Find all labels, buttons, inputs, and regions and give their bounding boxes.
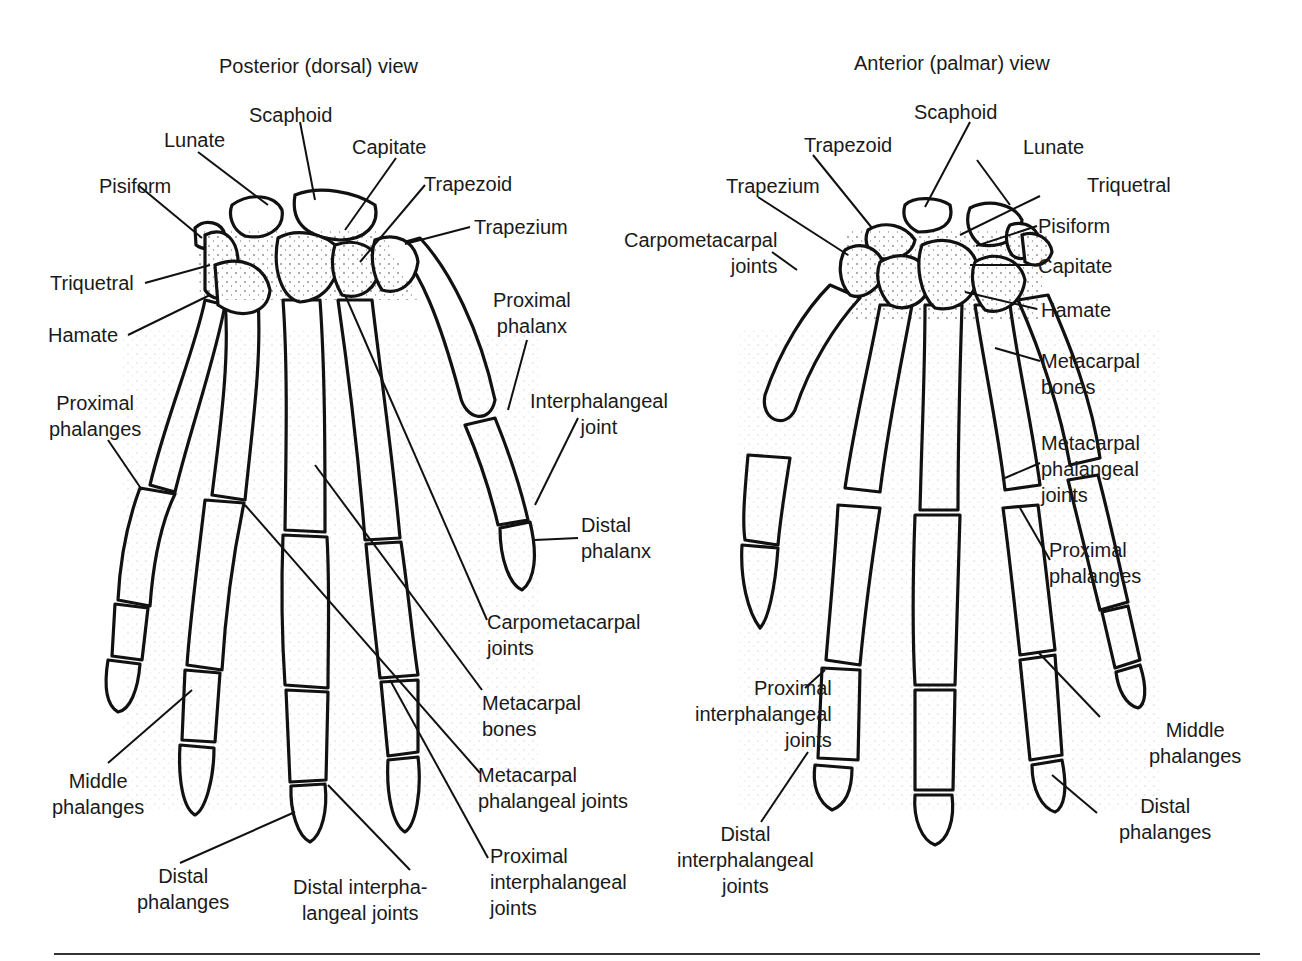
label-anterior-distal-interphalangeal-joints: Distal interphalangeal joints [677,821,814,899]
label-posterior-metacarpal-phalangeal-joints: Metacarpal phalangeal joints [478,762,628,814]
label-posterior-trapezoid: Trapezoid [424,171,512,197]
label-anterior-metacarpal-phalangeal-joints: Metacarpal phalangeal joints [1041,430,1140,508]
bottom-divider-rule [54,953,1260,955]
label-posterior-capitate: Capitate [352,134,427,160]
label-anterior-trapezoid: Trapezoid [804,132,892,158]
label-posterior-proximal-phalanx: Proximal phalanx [493,287,571,339]
label-posterior-proximal-phalanges: Proximal phalanges [49,390,141,442]
hand-skeleton-diagram: Posterior (dorsal) view Anterior (palmar… [0,0,1302,961]
label-anterior-distal-phalanges: Distal phalanges [1119,793,1211,845]
label-anterior-proximal-interphalangeal-joints: Proximal interphalangeal joints [695,675,832,753]
label-posterior-trapezium: Trapezium [474,214,568,240]
label-anterior-pisiform: Pisiform [1038,213,1110,239]
label-anterior-triquetral: Triquetral [1087,172,1171,198]
label-posterior-lunate: Lunate [164,127,225,153]
label-posterior-middle-phalanges: Middle phalanges [52,768,144,820]
label-posterior-metacarpal-bones: Metacarpal bones [482,690,581,742]
label-anterior-metacarpal-bones: Metacarpal bones [1041,348,1140,400]
label-posterior-hamate: Hamate [48,322,118,348]
label-anterior-proximal-phalanges: Proximal phalanges [1049,537,1141,589]
posterior-hand [106,190,540,842]
label-anterior-carpometacarpal-joints: Carpometacarpal joints [624,227,777,279]
posterior-view-title: Posterior (dorsal) view [219,53,418,79]
label-posterior-distal-interphalangeal-joints: Distal interpha- langeal joints [293,874,428,926]
label-anterior-capitate: Capitate [1038,253,1113,279]
anterior-view-title: Anterior (palmar) view [854,50,1050,76]
label-posterior-distal-phalanges: Distal phalanges [137,863,229,915]
label-anterior-lunate: Lunate [1023,134,1084,160]
label-posterior-triquetral: Triquetral [50,270,134,296]
label-anterior-scaphoid: Scaphoid [914,99,997,125]
label-anterior-trapezium: Trapezium [726,173,820,199]
label-posterior-proximal-interphalangeal-joints: Proximal interphalangeal joints [490,843,627,921]
label-posterior-carpometacarpal-joints: Carpometacarpal joints [487,609,640,661]
label-posterior-scaphoid: Scaphoid [249,102,332,128]
label-posterior-distal-phalanx: Distal phalanx [581,512,651,564]
label-posterior-pisiform: Pisiform [99,173,171,199]
label-posterior-interphalangeal-joint: Interphalangeal joint [530,388,668,440]
label-anterior-middle-phalanges: Middle phalanges [1149,717,1241,769]
label-anterior-hamate: Hamate [1041,297,1111,323]
